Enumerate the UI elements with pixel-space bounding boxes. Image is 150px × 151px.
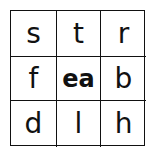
cell-t: t <box>57 11 101 57</box>
cell-center-ea: ea <box>57 57 101 101</box>
letter-grid: s t r f ea b d l h <box>10 10 145 146</box>
cell-b: b <box>101 57 146 101</box>
cell-h: h <box>101 101 146 147</box>
cell-f: f <box>11 57 57 101</box>
cell-d: d <box>11 101 57 147</box>
cell-s: s <box>11 11 57 57</box>
cell-l: l <box>57 101 101 147</box>
cell-r: r <box>101 11 146 57</box>
